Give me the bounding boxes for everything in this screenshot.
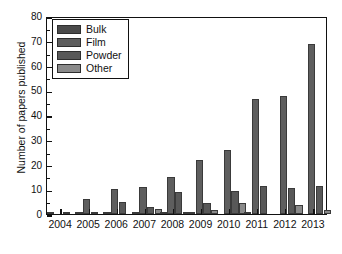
bar-group (216, 18, 244, 214)
bar-film-2011 (252, 99, 259, 214)
x-tick-major (201, 209, 202, 214)
y-tick-label: 0 (20, 210, 42, 220)
bar-film-2010 (224, 150, 231, 214)
legend-swatch-film (57, 38, 81, 47)
bar-group (300, 18, 328, 214)
y-tick-label: 20 (20, 161, 42, 171)
legend-item-other[interactable]: Other (57, 62, 122, 75)
legend-label: Other (86, 63, 112, 74)
legend: BulkFilmPowderOther (52, 19, 129, 79)
bar-powder-2008 (175, 192, 182, 214)
bar-powder-2007 (147, 207, 154, 214)
bar-bulk-2007 (132, 212, 139, 214)
bar-powder-2006 (119, 202, 126, 214)
x-axis-tick-labels: 2004200520062007200820092010201120122013 (46, 218, 327, 236)
x-tick-major (229, 209, 230, 214)
bar-chart-figure: Number of papers published 0102030405060… (0, 0, 342, 254)
bar-film-2013 (308, 44, 315, 214)
legend-item-bulk[interactable]: Bulk (57, 23, 122, 36)
y-tick-major (47, 215, 52, 216)
bar-bulk-2008 (160, 212, 167, 214)
legend-swatch-powder (57, 51, 81, 60)
x-tick-major (285, 209, 286, 214)
legend-item-powder[interactable]: Powder (57, 49, 122, 62)
y-tick-label: 70 (20, 37, 42, 47)
x-tick-label: 2013 (297, 218, 329, 230)
x-tick-major (117, 209, 118, 214)
legend-label: Powder (86, 50, 122, 61)
bar-powder-2005 (91, 212, 98, 214)
bar-film-2012 (280, 96, 287, 214)
bar-powder-2009 (203, 203, 210, 214)
legend-label: Film (86, 37, 106, 48)
x-tick-major (145, 209, 146, 214)
bar-powder-2013 (316, 186, 323, 214)
legend-swatch-other (57, 64, 81, 73)
bar-powder-2004 (63, 212, 70, 214)
x-tick-major (313, 209, 314, 214)
bar-group (244, 18, 272, 214)
x-tick-major (89, 209, 90, 214)
bar-bulk-2009 (188, 212, 195, 214)
bar-film-2009 (196, 160, 203, 214)
x-tick-major (60, 209, 61, 214)
y-tick-label: 60 (20, 62, 42, 72)
x-tick-major (257, 209, 258, 214)
bar-powder-2011 (260, 186, 267, 214)
bar-group (188, 18, 216, 214)
bar-group (131, 18, 159, 214)
bar-bulk-2011 (244, 212, 251, 214)
bar-bulk-2005 (75, 212, 82, 214)
y-tick-label: 50 (20, 86, 42, 96)
y-tick-label: 80 (20, 12, 42, 22)
bar-bulk-2006 (103, 212, 110, 214)
legend-label: Bulk (86, 24, 106, 35)
legend-swatch-bulk (57, 25, 81, 34)
bar-group (159, 18, 187, 214)
bar-other-2013 (324, 210, 331, 214)
y-tick-label: 30 (20, 136, 42, 146)
y-tick-label: 40 (20, 111, 42, 121)
x-tick-major (173, 209, 174, 214)
bar-powder-2012 (288, 188, 295, 214)
bar-powder-2010 (231, 191, 238, 215)
bar-group (272, 18, 300, 214)
y-axis-tick-labels: 01020304050607080 (15, 0, 42, 254)
bar-bulk-2004 (47, 212, 54, 214)
legend-item-film[interactable]: Film (57, 36, 122, 49)
y-tick-label: 10 (20, 185, 42, 195)
